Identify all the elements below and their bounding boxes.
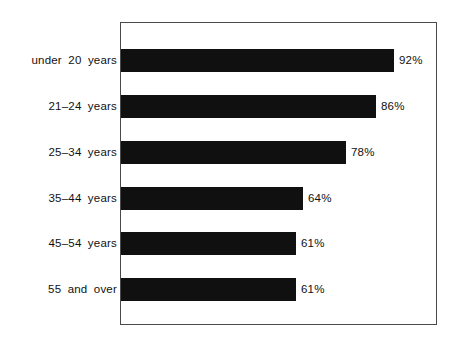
bar (121, 141, 346, 164)
bar-value-label: 61% (301, 232, 325, 255)
bar-value-label: 61% (301, 278, 325, 301)
category-label: 35–44 years (49, 187, 118, 210)
bar (121, 187, 303, 210)
bar-value-label: 86% (381, 95, 405, 118)
chart-row: 21–24 years 86% (0, 95, 458, 118)
chart-row: 55 and over 61% (0, 278, 458, 301)
category-label: 25–34 years (49, 141, 118, 164)
category-label: 45–54 years (49, 232, 118, 255)
chart-row: 45–54 years 61% (0, 232, 458, 255)
bar-value-label: 92% (399, 49, 423, 72)
bar (121, 232, 296, 255)
bar (121, 278, 296, 301)
bar-value-label: 64% (308, 187, 332, 210)
bar (121, 95, 376, 118)
category-label: 55 and over (48, 278, 117, 301)
chart-row: 25–34 years 78% (0, 141, 458, 164)
bar-value-label: 78% (351, 141, 375, 164)
chart-row: 35–44 years 64% (0, 187, 458, 210)
bar (121, 49, 394, 72)
chart-row: under 20 years 92% (0, 49, 458, 72)
category-label: under 20 years (31, 49, 117, 72)
category-label: 21–24 years (49, 95, 118, 118)
chart-page: under 20 years 92% 21–24 years 86% 25–34… (0, 0, 458, 346)
